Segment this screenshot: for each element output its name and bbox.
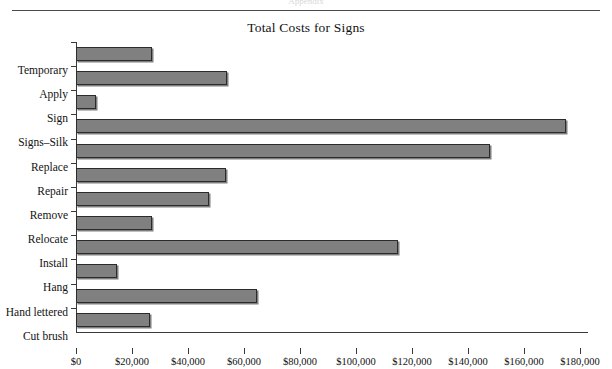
x-axis-tick (188, 348, 189, 354)
x-axis-tick-label: $20,000 (115, 356, 149, 367)
bar-row (76, 163, 588, 187)
x-axis-tick-label: $0 (71, 356, 82, 367)
bar (76, 289, 257, 303)
bar (76, 168, 226, 182)
bar (76, 240, 398, 254)
bar (76, 264, 117, 278)
x-axis-tick (580, 348, 581, 354)
bar-row (76, 259, 588, 283)
chart-title: Total Costs for Signs (0, 20, 612, 36)
y-axis-label: Sign (0, 106, 72, 130)
bar (76, 71, 227, 85)
y-axis-label: Hang (0, 275, 72, 299)
bar (76, 144, 490, 158)
y-axis-label: Signs–Silk (0, 130, 72, 154)
plot-area (76, 42, 588, 336)
y-axis-label: Repair (0, 179, 72, 203)
bar (76, 119, 566, 133)
clipped-page-header: Appendix (0, 0, 612, 6)
bar-row (76, 235, 588, 259)
x-axis-tick-label: $40,000 (171, 356, 205, 367)
y-axis-label: Apply (0, 82, 72, 106)
x-axis-tick-label: $140,000 (448, 356, 487, 367)
header-divider-rule (12, 10, 600, 11)
bar (76, 47, 152, 61)
x-axis-tick (412, 348, 413, 354)
y-axis-label: Cut brush (0, 324, 72, 348)
bar (76, 95, 96, 109)
bar-rows (76, 42, 588, 332)
x-axis-tick-labels: $0$20,000$40,000$60,000$80,000$100,000$1… (0, 356, 612, 369)
y-axis-label: Replace (0, 155, 72, 179)
x-axis-tick (76, 348, 77, 354)
bar-row (76, 284, 588, 308)
y-axis-tick (71, 66, 76, 67)
y-axis-label: Hand lettered (0, 300, 72, 324)
x-axis-tick (468, 348, 469, 354)
y-axis-tick (71, 139, 76, 140)
x-axis-tick-label: $180,000 (560, 356, 599, 367)
y-axis-tick (71, 235, 76, 236)
y-axis-tick (71, 187, 76, 188)
bar-row (76, 187, 588, 211)
bar-row (76, 66, 588, 90)
y-axis-tick (71, 114, 76, 115)
bar (76, 192, 209, 206)
y-axis-tick (71, 90, 76, 91)
y-axis-tick (71, 259, 76, 260)
x-axis-tick (524, 348, 525, 354)
y-axis-tick (71, 42, 76, 43)
bar-row (76, 139, 588, 163)
bar-chart: Total Costs for Signs TemporaryApplySign… (0, 16, 612, 369)
y-axis-tick (71, 284, 76, 285)
bar-row (76, 211, 588, 235)
y-axis-tick (71, 163, 76, 164)
x-axis-tick-label: $120,000 (392, 356, 431, 367)
x-axis-tick (356, 348, 357, 354)
y-axis-tick (71, 308, 76, 309)
x-axis-line (76, 332, 588, 333)
x-axis-tick-label: $100,000 (336, 356, 375, 367)
x-axis-tick-label: $60,000 (227, 356, 261, 367)
x-axis-tick (244, 348, 245, 354)
y-axis-label: Relocate (0, 227, 72, 251)
bar (76, 313, 150, 327)
bar (76, 216, 152, 230)
bar-row (76, 90, 588, 114)
y-axis-label: Install (0, 251, 72, 275)
bar-row (76, 308, 588, 332)
x-axis-tick (300, 348, 301, 354)
x-axis-tick-label: $160,000 (504, 356, 543, 367)
y-axis-label: Remove (0, 203, 72, 227)
y-axis-label: Temporary (0, 58, 72, 82)
y-axis-category-labels: TemporaryApplySignSigns–SilkReplaceRepai… (0, 58, 72, 348)
x-axis-tick-label: $80,000 (283, 356, 317, 367)
bar-row (76, 114, 588, 138)
x-axis-ticks (76, 348, 588, 356)
bar-row (76, 42, 588, 66)
x-axis-tick (132, 348, 133, 354)
y-axis-tick (71, 211, 76, 212)
